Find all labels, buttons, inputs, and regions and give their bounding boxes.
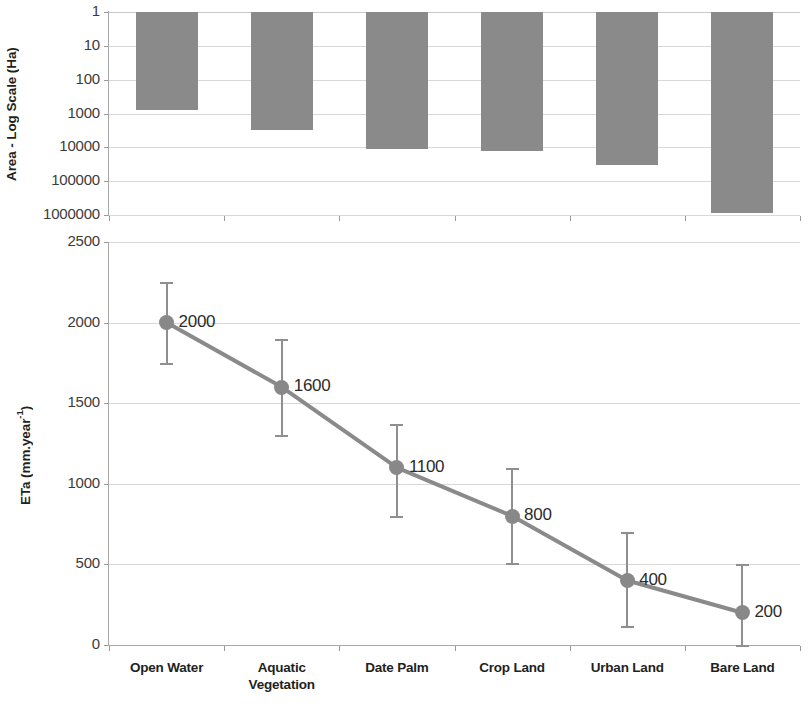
eta-errorbar-cap-lower	[736, 645, 749, 647]
area-bar[interactable]	[366, 12, 428, 149]
area-bar[interactable]	[136, 12, 198, 110]
area-y-tick-label: 1000000	[0, 205, 100, 222]
eta-x-tickmark	[109, 646, 110, 651]
area-gridline	[109, 181, 800, 182]
area-y-axis-line	[108, 11, 109, 216]
area-bar[interactable]	[596, 12, 658, 165]
eta-data-marker[interactable]	[620, 573, 635, 588]
category-label: Open Water	[109, 659, 224, 676]
eta-errorbar-cap-upper	[621, 532, 634, 534]
eta-errorbar-cap-lower	[506, 563, 519, 565]
area-bar[interactable]	[711, 12, 773, 213]
category-label: Bare Land	[685, 659, 800, 676]
area-y-tick-label: 10000	[0, 137, 100, 154]
category-label-line1: Bare Land	[685, 659, 800, 676]
eta-errorbar-cap-lower	[160, 363, 173, 365]
area-x-tickmark	[339, 216, 340, 221]
eta-series-line	[0, 232, 808, 704]
category-label-line1: Crop Land	[455, 659, 570, 676]
eta-y-axis-title: ETa (mm.year-1)	[14, 350, 32, 560]
eta-x-tickmark	[570, 646, 571, 651]
area-gridline	[109, 147, 800, 148]
area-y-tick-label: 1	[0, 2, 100, 19]
eta-errorbar-cap-upper	[506, 468, 519, 470]
area-gridline	[109, 46, 800, 47]
area-y-tick-label: 10	[0, 36, 100, 53]
eta-errorbar-cap-lower	[390, 516, 403, 518]
eta-gridline	[109, 242, 800, 243]
eta-data-label: 200	[754, 602, 781, 622]
category-label-line1: Open Water	[109, 659, 224, 676]
eta-gridline	[109, 564, 800, 565]
eta-data-label: 800	[524, 505, 551, 525]
eta-y-axis-title-base: ETa (mm.year	[18, 418, 33, 504]
category-label: Crop Land	[455, 659, 570, 676]
area-y-tick-label: 1000	[0, 104, 100, 121]
eta-data-marker[interactable]	[735, 605, 750, 620]
area-gridline	[109, 80, 800, 81]
area-bar[interactable]	[251, 12, 313, 130]
category-label: Urban Land	[570, 659, 685, 676]
eta-data-label: 2000	[179, 312, 216, 332]
eta-y-tick-label: 2500	[0, 232, 100, 249]
eta-data-label: 400	[639, 570, 666, 590]
eta-errorbar-cap-upper	[275, 339, 288, 341]
eta-data-label: 1600	[294, 376, 331, 396]
eta-y-tick-label: 1500	[0, 393, 100, 410]
area-x-tickmark	[224, 216, 225, 221]
eta-x-tickmark	[685, 646, 686, 651]
eta-data-marker[interactable]	[505, 509, 520, 524]
eta-errorbar-cap-upper	[160, 282, 173, 284]
eta-errorbar-cap-upper	[736, 564, 749, 566]
eta-y-tick-label: 1000	[0, 474, 100, 491]
area-bar[interactable]	[481, 12, 543, 151]
eta-gridline	[109, 403, 800, 404]
area-x-tickmark	[455, 216, 456, 221]
category-label: Date Palm	[339, 659, 454, 676]
category-label-line2: Vegetation	[224, 676, 339, 693]
category-label-line1: Urban Land	[570, 659, 685, 676]
eta-y-tick-label: 500	[0, 554, 100, 571]
eta-y-tick-label: 0	[0, 635, 100, 652]
eta-errorbar-cap-lower	[275, 435, 288, 437]
eta-data-label: 1100	[409, 457, 444, 477]
figure-root: Area - Log Scale (Ha) 110100100010000100…	[0, 0, 808, 704]
area-y-tick-label: 100	[0, 70, 100, 87]
category-label: AquaticVegetation	[224, 659, 339, 694]
eta-x-tickmark	[455, 646, 456, 651]
area-gridline	[109, 114, 800, 115]
area-y-tick-label: 100000	[0, 171, 100, 188]
eta-line-chart-panel: ETa (mm.year-1) 25002000150010005000 200…	[0, 232, 808, 704]
eta-data-marker[interactable]	[159, 315, 174, 330]
eta-x-tickmark	[224, 646, 225, 651]
eta-errorbar-cap-upper	[390, 424, 403, 426]
eta-y-axis-line	[108, 242, 109, 646]
category-label-line1: Aquatic	[224, 659, 339, 676]
area-bar-chart-panel: Area - Log Scale (Ha) 110100100010000100…	[0, 0, 808, 232]
eta-data-marker[interactable]	[274, 380, 289, 395]
eta-x-tickmark	[800, 646, 801, 651]
eta-y-axis-title-superscript: -1	[14, 410, 25, 418]
category-label-line1: Date Palm	[339, 659, 454, 676]
area-x-tickmark	[109, 216, 110, 221]
area-x-tickmark	[685, 216, 686, 221]
eta-data-marker[interactable]	[389, 460, 404, 475]
eta-y-tick-label: 2000	[0, 313, 100, 330]
area-x-tickmark	[800, 216, 801, 221]
eta-x-tickmark	[339, 646, 340, 651]
eta-gridline	[109, 484, 800, 485]
area-gridline	[109, 12, 800, 13]
area-x-tickmark	[570, 216, 571, 221]
eta-errorbar-cap-lower	[621, 626, 634, 628]
